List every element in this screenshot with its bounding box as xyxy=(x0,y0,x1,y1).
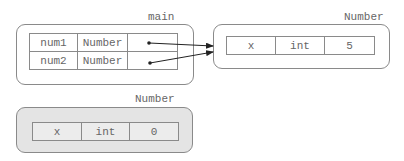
reference-arrow-num1 xyxy=(149,43,213,46)
reference-arrows xyxy=(0,0,404,161)
reference-arrow-num2 xyxy=(150,52,213,63)
